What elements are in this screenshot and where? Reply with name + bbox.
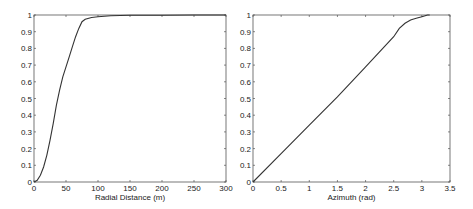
x-tick-label: 250 xyxy=(187,184,201,193)
x-tick-label: 0.5 xyxy=(276,184,288,193)
y-tick-label: 0.1 xyxy=(240,161,252,170)
y-tick-label: 1 xyxy=(247,11,252,20)
y-tick-label: 0.9 xyxy=(21,28,33,37)
y-tick-label: 0.6 xyxy=(21,78,33,87)
y-tick-label: 0.5 xyxy=(21,95,33,104)
x-axis-label: Radial Distance (m) xyxy=(95,193,166,202)
charts-figure: 00.10.20.30.40.50.60.70.80.9105010015020… xyxy=(0,0,473,209)
x-tick-label: 0 xyxy=(251,184,256,193)
x-tick-label: 100 xyxy=(91,184,105,193)
y-tick-label: 0.5 xyxy=(240,95,252,104)
x-tick-label: 50 xyxy=(62,184,71,193)
chart-2: 00.10.20.30.40.50.60.70.80.9100.511.522.… xyxy=(240,11,456,202)
y-tick-label: 0.8 xyxy=(240,44,252,53)
y-tick-label: 0.2 xyxy=(240,145,252,154)
y-tick-label: 0.1 xyxy=(21,161,33,170)
y-tick-label: 0.7 xyxy=(240,61,252,70)
y-tick-label: 0.3 xyxy=(21,128,33,137)
x-tick-label: 0 xyxy=(32,184,37,193)
x-tick-label: 1 xyxy=(307,184,312,193)
x-tick-label: 2 xyxy=(363,184,368,193)
x-tick-label: 1.5 xyxy=(332,184,344,193)
y-tick-label: 0.6 xyxy=(240,78,252,87)
plot-area xyxy=(34,15,226,182)
plot-area xyxy=(253,15,450,182)
x-tick-label: 300 xyxy=(219,184,233,193)
x-axis-label: Azimuth (rad) xyxy=(327,193,375,202)
chart-1: 00.10.20.30.40.50.60.70.80.9105010015020… xyxy=(21,11,233,202)
y-tick-label: 0.3 xyxy=(240,128,252,137)
x-tick-label: 200 xyxy=(155,184,169,193)
y-tick-label: 0.4 xyxy=(240,111,252,120)
y-tick-label: 0.7 xyxy=(21,61,33,70)
y-tick-label: 0.8 xyxy=(21,44,33,53)
x-tick-label: 150 xyxy=(123,184,137,193)
y-tick-label: 0.9 xyxy=(240,28,252,37)
x-tick-label: 3 xyxy=(420,184,425,193)
y-tick-label: 0.2 xyxy=(21,145,33,154)
x-tick-label: 2.5 xyxy=(388,184,400,193)
x-tick-label: 3.5 xyxy=(444,184,456,193)
y-tick-label: 0.4 xyxy=(21,111,33,120)
y-tick-label: 1 xyxy=(28,11,33,20)
